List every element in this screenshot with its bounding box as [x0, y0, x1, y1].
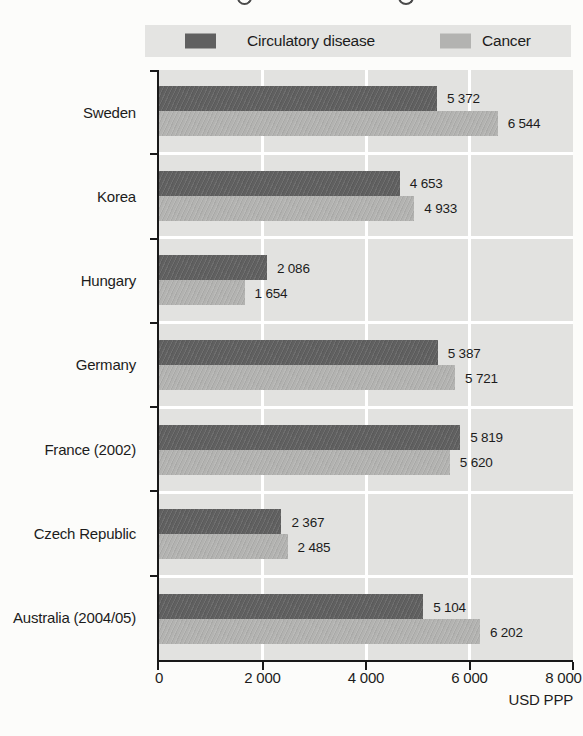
x-axis-tick-label: 8 000 — [545, 669, 582, 686]
plot-area: 5 3726 5444 6534 9332 0861 6545 3875 721… — [157, 70, 573, 662]
value-label: 5 387 — [448, 345, 481, 360]
y-axis-tick — [150, 490, 157, 492]
x-axis-tick-label: 2 000 — [244, 669, 281, 686]
bar-cancer — [159, 111, 498, 136]
value-label: 2 367 — [291, 514, 324, 529]
category-label: France (2002) — [0, 407, 136, 491]
value-label: 5 819 — [470, 430, 503, 445]
value-label: 6 544 — [508, 116, 541, 131]
category-label: Korea — [0, 154, 136, 238]
legend-swatch-cancer — [440, 34, 471, 49]
value-label: 4 933 — [424, 201, 457, 216]
x-axis-tick-labels: 02 0004 0006 0008 000 — [159, 669, 573, 689]
y-axis-tick — [150, 70, 157, 72]
category-axis-labels: SwedenKoreaHungaryGermanyFrance (2002)Cz… — [0, 70, 136, 660]
value-label: 2 485 — [298, 539, 331, 554]
figure-page: Circulatory disease Cancer SwedenKoreaHu… — [0, 0, 583, 736]
bar-circulatory-disease — [159, 340, 438, 365]
value-label: 1 654 — [255, 285, 288, 300]
value-label: 2 086 — [277, 260, 310, 275]
category-label: Germany — [0, 323, 136, 407]
cropped-title-fragment — [398, 0, 414, 5]
bar-circulatory-disease — [159, 509, 281, 534]
category-label: Sweden — [0, 70, 136, 154]
bar-circulatory-disease — [159, 594, 423, 619]
bar-cancer — [159, 196, 414, 221]
legend-label-cancer: Cancer — [482, 32, 531, 50]
bar-circulatory-disease — [159, 171, 400, 196]
category-label: Hungary — [0, 239, 136, 323]
bar-circulatory-disease — [159, 255, 267, 280]
category-label: Czech Republic — [0, 491, 136, 575]
legend-label-circulatory-disease: Circulatory disease — [247, 32, 375, 50]
gridline — [468, 70, 471, 660]
bar-cancer — [159, 450, 450, 475]
bar-circulatory-disease — [159, 425, 460, 450]
bar-circulatory-disease — [159, 86, 437, 111]
y-axis-tick — [150, 153, 157, 155]
x-axis-tick-label: 4 000 — [348, 669, 385, 686]
value-label: 5 721 — [465, 370, 498, 385]
chart-legend: Circulatory disease Cancer — [145, 25, 571, 57]
value-label: 5 104 — [433, 599, 466, 614]
x-axis-tick-label: 0 — [155, 669, 163, 686]
cropped-title-fragment — [237, 0, 252, 5]
x-axis-tick-label: 6 000 — [451, 669, 488, 686]
legend-swatch-circulatory-disease — [185, 34, 216, 49]
bar-cancer — [159, 619, 480, 644]
bar-cancer — [159, 280, 245, 305]
y-axis-tick — [150, 238, 157, 240]
y-axis-tick — [150, 406, 157, 408]
value-label: 5 620 — [460, 455, 493, 470]
y-axis-tick — [150, 322, 157, 324]
value-label: 5 372 — [447, 91, 480, 106]
x-axis-unit-label: USD PPP — [159, 691, 573, 708]
bar-cancer — [159, 365, 455, 390]
value-label: 6 202 — [490, 624, 523, 639]
value-label: 4 653 — [410, 176, 443, 191]
y-axis-tick — [150, 575, 157, 577]
bar-cancer — [159, 534, 288, 559]
category-label: Australia (2004/05) — [0, 576, 136, 660]
